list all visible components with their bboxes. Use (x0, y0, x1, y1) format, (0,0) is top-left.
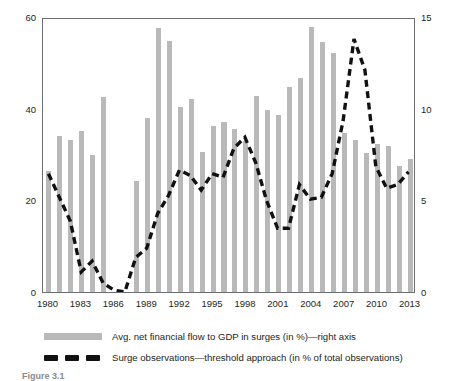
bar-1992 (178, 107, 183, 292)
bar-1993 (189, 99, 194, 292)
legend-item-bars: Avg. net financial flow to GDP in surges… (42, 326, 442, 347)
plot-area (42, 18, 415, 293)
bar-2012 (397, 166, 402, 293)
y-right-tick-15: 15 (421, 13, 451, 23)
y-right-tick-10: 10 (421, 105, 451, 115)
bar-1991 (167, 41, 172, 292)
y-left-tick-20: 20 (6, 196, 36, 206)
bar-1998 (243, 141, 248, 292)
bar-2008 (353, 140, 358, 292)
y-left-tick-40: 40 (6, 105, 36, 115)
y-left-tick-60: 60 (6, 13, 36, 23)
bar-1995 (211, 126, 216, 292)
chart-legend: Avg. net financial flow to GDP in surges… (42, 326, 442, 368)
bar-2004 (309, 27, 314, 292)
bar-2005 (320, 42, 325, 292)
legend-item-line: Surge observations—threshold approach (i… (42, 347, 442, 368)
bar-1999 (254, 96, 259, 292)
figure-root: 0204060 051015 1980198319861989199219951… (0, 0, 457, 381)
bar-2007 (342, 133, 347, 292)
bar-2011 (386, 146, 391, 292)
y-left-tick-0: 0 (6, 288, 36, 298)
legend-label-line: Surge observations—threshold approach (i… (112, 353, 403, 363)
bar-2006 (331, 53, 336, 292)
bar-swatch-icon (44, 333, 102, 340)
bar-1980 (46, 171, 51, 292)
bar-1994 (200, 152, 205, 292)
bar-1983 (79, 131, 84, 292)
bar-1984 (90, 155, 95, 292)
bar-2009 (364, 153, 369, 292)
bar-1997 (232, 129, 237, 292)
bar-2003 (298, 78, 303, 293)
bar-1990 (156, 28, 161, 292)
y-right-tick-5: 5 (421, 196, 451, 206)
bar-2001 (276, 115, 281, 292)
x-tick-2013: 2013 (390, 299, 430, 309)
y-right-tick-0: 0 (421, 288, 451, 298)
bar-series-layer (43, 19, 414, 292)
bar-1988 (134, 181, 139, 292)
legend-label-bars: Avg. net financial flow to GDP in surges… (112, 332, 356, 342)
bar-2013 (408, 159, 413, 292)
bar-1996 (221, 122, 226, 293)
bar-2000 (265, 110, 270, 292)
bar-1985 (101, 97, 106, 292)
bar-2002 (287, 87, 292, 292)
bar-1982 (68, 140, 73, 292)
bar-1989 (145, 118, 150, 292)
figure-caption: Figure 3.1 (22, 372, 65, 381)
dashed-line-swatch-icon (44, 355, 102, 361)
bar-2010 (375, 144, 380, 293)
bar-1981 (57, 136, 62, 292)
